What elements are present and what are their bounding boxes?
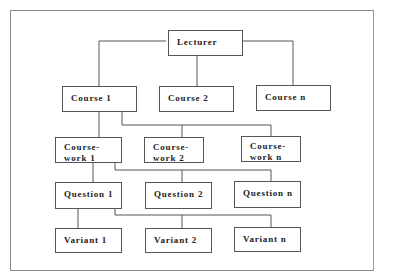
node-label: Question 2: [154, 189, 203, 199]
node-label: Course 2: [168, 93, 209, 103]
node-variant-2: Variant 2: [145, 228, 212, 253]
node-coursework-n: Course- work n: [241, 136, 301, 162]
node-lecturer: Lecturer: [168, 30, 243, 56]
node-label: Question 1: [64, 189, 113, 199]
node-label-line1: Course-: [64, 142, 121, 153]
node-label: Course 1: [71, 93, 112, 103]
node-label: Course n: [265, 92, 306, 102]
node-label: Question n: [243, 188, 293, 198]
node-label: Lecturer: [177, 37, 217, 47]
node-course-n: Course n: [256, 85, 331, 111]
node-label: Variant 1: [64, 235, 107, 245]
node-question-1: Question 1: [55, 182, 122, 209]
node-label-line2: work 2: [153, 153, 203, 164]
node-label-line1: Course-: [250, 141, 300, 152]
node-question-n: Question n: [234, 181, 301, 208]
node-coursework-1: Course- work 1: [55, 137, 122, 163]
node-label: Variant n: [243, 234, 287, 244]
node-coursework-2: Course- work 2: [144, 137, 204, 163]
node-variant-n: Variant n: [234, 227, 301, 252]
node-label-line2: work n: [250, 152, 300, 163]
node-course-1: Course 1: [62, 86, 137, 112]
node-label-line1: Course-: [153, 142, 203, 153]
node-label-line2: work 1: [64, 153, 121, 164]
node-question-2: Question 2: [145, 182, 212, 209]
node-course-2: Course 2: [159, 86, 234, 112]
node-variant-1: Variant 1: [55, 228, 122, 253]
node-label: Variant 2: [154, 235, 197, 245]
